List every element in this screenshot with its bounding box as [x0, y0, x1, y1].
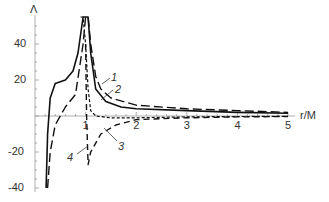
x-axis-label: r/M: [300, 110, 316, 121]
x-tick-label: 1: [83, 120, 89, 131]
x-tick-label: 4: [234, 120, 240, 131]
series-1-line: [48, 17, 288, 188]
y-axis-label: Λ: [30, 4, 37, 15]
y-tick-label: -40: [8, 182, 24, 193]
y-tick-label: 20: [14, 74, 26, 85]
series-2-line: [46, 17, 288, 188]
annotation-arrow: [102, 78, 110, 84]
curve-label-2: 2: [115, 84, 121, 95]
annotation-arrow: [104, 128, 117, 141]
y-tick-label: -20: [8, 146, 24, 157]
y-tick-label: 40: [14, 38, 26, 49]
series-4-line: [86, 44, 288, 165]
curve-label-4: 4: [67, 152, 73, 163]
x-tick-label: 5: [285, 120, 291, 131]
x-tick-label: 3: [184, 120, 190, 131]
chart-plot: [0, 0, 329, 202]
annotation-arrow: [77, 146, 88, 154]
series-3-line: [81, 17, 289, 118]
curve-label-3: 3: [118, 141, 124, 152]
curve-label-1: 1: [111, 72, 117, 83]
x-tick-label: 2: [133, 120, 139, 131]
axes: [35, 15, 295, 192]
series-group: [46, 17, 288, 188]
